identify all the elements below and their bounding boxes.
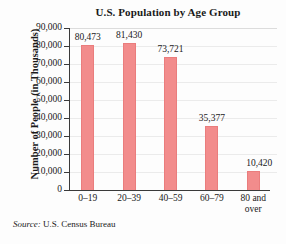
bar [164, 57, 177, 190]
x-axis-tick-label-line: 60–79 [200, 193, 224, 203]
y-axis-tick-label: 30,000 [14, 130, 62, 140]
x-axis-tick-label-line: 20–39 [117, 193, 141, 203]
y-axis-tick [64, 100, 70, 101]
bar [81, 45, 94, 190]
chart-title: U.S. Population by Age Group [56, 6, 280, 18]
gridline [70, 28, 277, 29]
source-text: U.S. Census Bureau [41, 219, 116, 229]
x-axis-tick-label: 80 andover [227, 193, 279, 215]
x-axis-tick-label-line: 40–59 [159, 193, 183, 203]
bar-value-label: 35,377 [189, 113, 235, 123]
y-axis-tick-label: 10,000 [14, 166, 62, 176]
bar-value-label: 10,420 [236, 158, 282, 168]
y-axis-tick-label: 60,000 [14, 76, 62, 86]
y-axis-tick [64, 136, 70, 137]
y-axis-tick-label: 0 [14, 184, 62, 194]
source-note: Source: U.S. Census Bureau [13, 219, 115, 229]
y-axis-tick-label: 50,000 [14, 94, 62, 104]
source-label: Source: [13, 219, 41, 229]
bar [247, 171, 260, 190]
x-axis-tick-label-line: 0–19 [78, 193, 97, 203]
y-axis-tick [64, 190, 70, 191]
y-axis-tick-label: 90,000 [14, 22, 62, 32]
bar [123, 43, 136, 190]
y-axis-tick [64, 118, 70, 119]
y-axis-tick [64, 28, 70, 29]
y-axis-tick [64, 172, 70, 173]
y-axis-tick [64, 154, 70, 155]
chart-figure: U.S. Population by Age Group Number of P… [0, 0, 286, 244]
y-axis-tick [64, 82, 70, 83]
y-axis-tick-label: 40,000 [14, 112, 62, 122]
y-axis-tick-label: 70,000 [14, 58, 62, 68]
y-axis-tick [64, 46, 70, 47]
y-axis-tick-label: 20,000 [14, 148, 62, 158]
y-axis-tick-labels: 010,00020,00030,00040,00050,00060,00070,… [12, 0, 62, 244]
y-axis-tick-label: 80,000 [14, 40, 62, 50]
x-axis-tick-label-line: 80 and [241, 193, 267, 203]
bar-value-label: 80,473 [65, 32, 111, 42]
y-axis-tick [64, 64, 70, 65]
bar [205, 126, 218, 190]
bar-value-label: 73,721 [148, 44, 194, 54]
x-axis-line [69, 190, 270, 191]
x-axis-tick-label-line: over [227, 204, 279, 215]
bar-value-label: 81,430 [106, 30, 152, 40]
